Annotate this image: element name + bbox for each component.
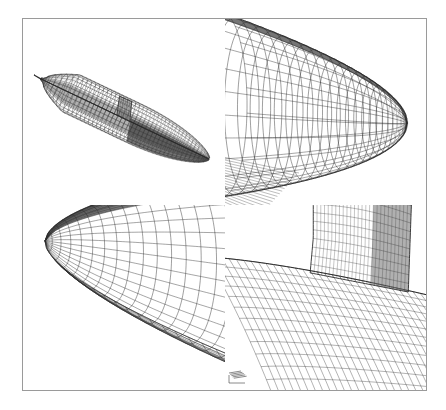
figure-root: Surface grid on submarine hull with sail (0, 0, 446, 410)
sail-mesh (225, 205, 427, 391)
panel-sail (225, 205, 427, 391)
figure-frame (22, 18, 427, 391)
full-hull-mesh (23, 19, 225, 205)
panel-full-hull (23, 19, 225, 205)
panel-stern (23, 205, 225, 391)
panel-bow (225, 19, 427, 205)
bow-mesh (225, 19, 427, 205)
stern-mesh (23, 205, 225, 391)
